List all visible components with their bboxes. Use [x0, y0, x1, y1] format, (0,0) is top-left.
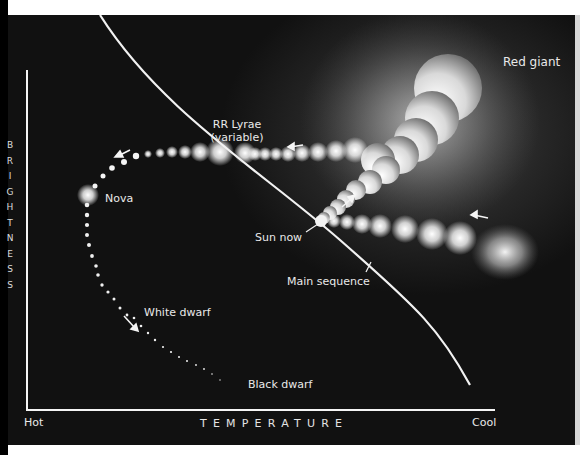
y-axis-letter: T — [4, 216, 16, 232]
label-red-giant: Red giant — [503, 56, 560, 69]
y-axis-letter: N — [4, 231, 16, 247]
label-main-sequence: Main sequence — [287, 275, 370, 288]
y-axis-letter: E — [4, 247, 16, 263]
y-axis-letter: H — [4, 200, 16, 216]
label-rr-lyrae: RR Lyrae (variable) — [205, 118, 269, 144]
sun-now-leader — [306, 224, 318, 232]
label-nova: Nova — [105, 192, 133, 205]
y-axis-letter: S — [4, 278, 16, 294]
y-axis-letter: R — [4, 154, 16, 170]
arrow-icon — [124, 316, 138, 331]
y-axis-letter: B — [4, 138, 16, 154]
label-rr-lyrae-variable: (variable) — [205, 131, 269, 144]
x-axis-label-temperature: TEMPERATURE — [200, 417, 348, 430]
label-rr-lyrae-name: RR Lyrae — [205, 118, 269, 131]
white-dwarf-track — [85, 203, 221, 381]
label-white-dwarf: White dwarf — [144, 306, 211, 319]
nova-star — [77, 184, 99, 206]
y-axis-letter: S — [4, 262, 16, 278]
label-sun-now: Sun now — [255, 231, 302, 244]
y-axis-letter: G — [4, 185, 16, 201]
label-black-dwarf: Black dwarf — [248, 378, 312, 391]
arrow-icon — [115, 150, 130, 157]
x-axis-label-hot: Hot — [24, 416, 43, 429]
x-axis-label-cool: Cool — [472, 416, 496, 429]
right-edge-border — [575, 15, 580, 445]
y-axis-label-brightness: B R I G H T N E S S — [4, 138, 16, 293]
diagram-frame: Red giant RR Lyrae (variable) Nova Sun n… — [0, 0, 580, 455]
y-axis-letter: I — [4, 169, 16, 185]
